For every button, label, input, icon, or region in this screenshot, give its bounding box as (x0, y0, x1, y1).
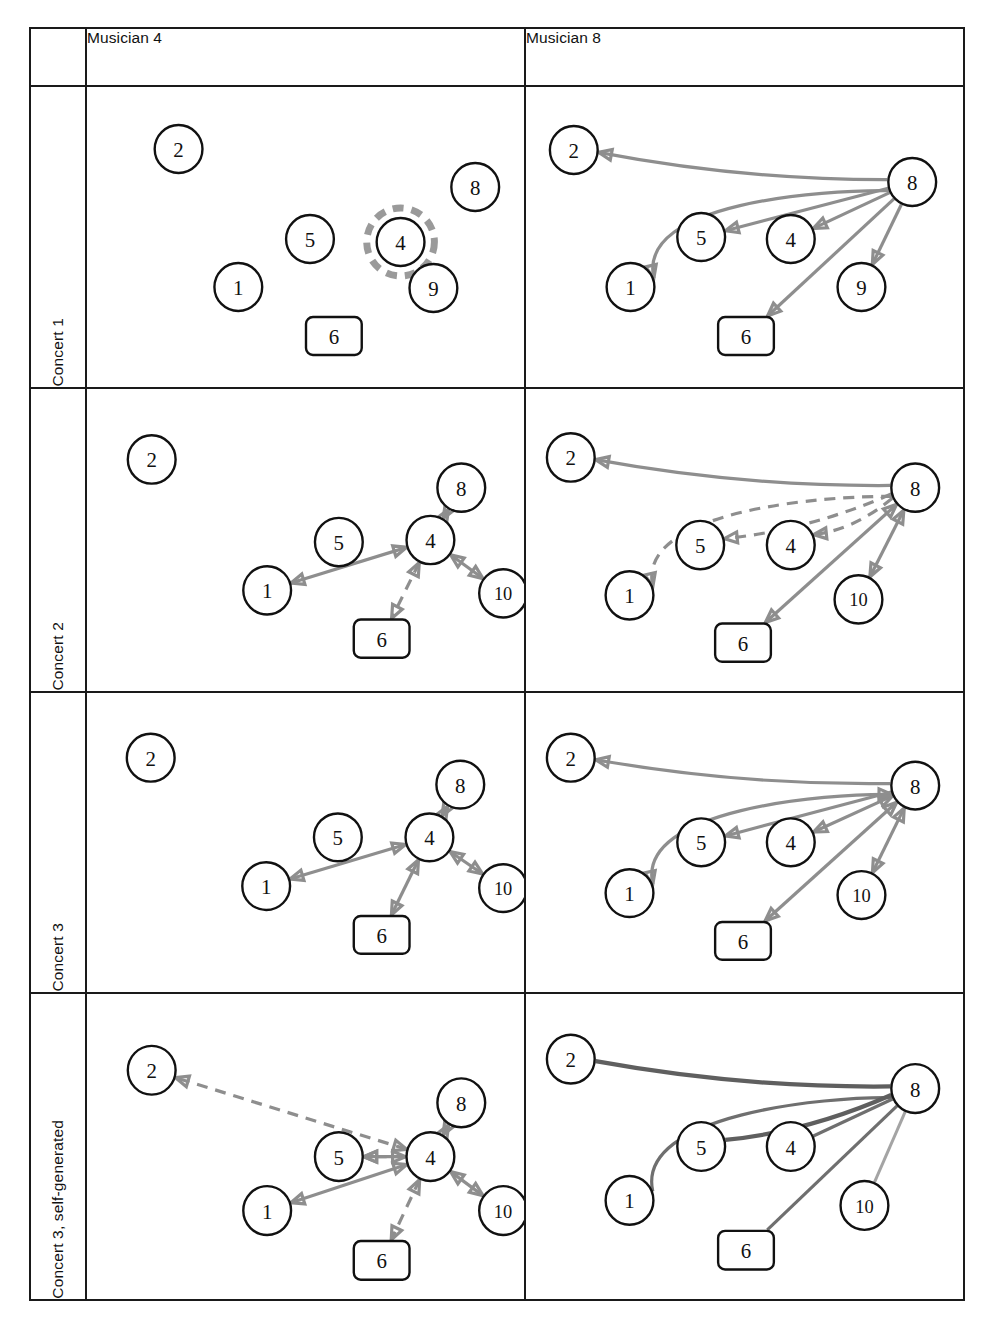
network-diagram: 28541106 (87, 994, 524, 1299)
node-label: 6 (376, 1249, 386, 1273)
node-10: 10 (479, 864, 524, 912)
node-label: 10 (494, 879, 512, 899)
node-layer: 2854196 (155, 125, 499, 355)
node-label: 6 (376, 628, 386, 652)
node-4: 4 (407, 516, 455, 564)
node-5: 5 (676, 521, 724, 569)
node-label: 2 (146, 1059, 156, 1083)
node-8: 8 (436, 761, 484, 809)
row-label-text: Concert 3 (50, 909, 66, 992)
node-label: 8 (456, 477, 466, 501)
node-label: 6 (741, 325, 751, 349)
row-label-text: Concert 1 (50, 304, 66, 387)
arrowhead (392, 843, 406, 853)
column-header-musician4: Musician 4 (86, 28, 525, 86)
node-10: 10 (479, 1186, 524, 1235)
node-2: 2 (550, 126, 598, 174)
node-label: 2 (173, 138, 183, 162)
node-label: 6 (376, 924, 386, 948)
node-label: 1 (624, 1189, 634, 1213)
node-label: 1 (624, 882, 634, 906)
node-label: 2 (566, 446, 576, 470)
node-label: 5 (696, 1135, 706, 1159)
panel-concert2-musician4: 28541106 (86, 388, 525, 692)
node-label: 4 (786, 831, 797, 855)
node-5: 5 (677, 213, 725, 261)
node-6: 6 (718, 1231, 774, 1270)
node-label: 6 (329, 325, 339, 349)
node-8: 8 (891, 762, 939, 810)
node-label: 5 (695, 534, 705, 558)
node-8: 8 (891, 1064, 939, 1113)
arrowhead (291, 574, 305, 584)
arrowhead (813, 218, 827, 228)
arrowhead (393, 1163, 407, 1173)
arrowhead (391, 1225, 401, 1239)
row-label-concert2: Concert 2 (30, 388, 86, 692)
node-1: 1 (243, 566, 291, 614)
node-1: 1 (606, 1176, 654, 1225)
network-diagram: 28541106 (526, 389, 963, 691)
edge-8-10 (872, 808, 904, 873)
network-diagram: 2854196 (87, 87, 524, 387)
arrowhead (409, 1179, 419, 1193)
arrowhead (391, 901, 402, 915)
figure-sheet: Musician 4 Musician 8 Concert 1 2854196 … (0, 0, 985, 1326)
node-1: 1 (606, 571, 654, 619)
edge-8-2 (596, 460, 891, 486)
node-6: 6 (718, 317, 774, 355)
node-label: 2 (146, 448, 156, 472)
node-9: 9 (410, 264, 458, 312)
node-label: 6 (741, 1239, 751, 1263)
node-1: 1 (606, 869, 654, 917)
node-label: 10 (855, 1195, 873, 1216)
node-label: 10 (494, 584, 512, 604)
panel-concert3-musician4: 28541106 (86, 692, 525, 993)
panel-concert3-musician8: 28541106 (525, 692, 964, 993)
arrowhead (176, 1076, 190, 1087)
panel-concert2-musician8: 28541106 (525, 388, 964, 692)
network-diagram: 28541106 (526, 693, 963, 992)
edge-8-10 (870, 510, 904, 577)
node-2: 2 (128, 435, 176, 483)
arrowhead (894, 808, 905, 822)
matrix-corner-cell (30, 28, 86, 86)
edge-layer (290, 802, 483, 915)
panel-concert3sg-musician4: 28541106 (86, 993, 525, 1300)
node-label: 8 (910, 775, 920, 799)
network-diagram: 28541106 (87, 693, 524, 992)
node-label: 5 (334, 1145, 344, 1169)
node-2: 2 (128, 1045, 176, 1094)
node-10: 10 (841, 1181, 889, 1230)
node-label: 4 (425, 529, 436, 553)
edge-8-2 (596, 760, 891, 784)
node-label: 1 (262, 579, 272, 603)
node-label: 5 (305, 228, 315, 252)
node-10: 10 (835, 575, 883, 623)
network-diagram: 28541106 (526, 994, 963, 1299)
node-label: 2 (566, 747, 576, 771)
row-label-text: Concert 3, self-generated (50, 1106, 66, 1299)
node-label: 9 (856, 276, 866, 300)
node-label: 10 (849, 590, 867, 610)
matrix-row-concert1: Concert 1 2854196 2854196 (30, 86, 964, 388)
node-layer: 28541106 (128, 435, 524, 657)
row-label-concert3-self-generated: Concert 3, self-generated (30, 993, 86, 1300)
arrowhead (393, 546, 407, 556)
edge-4-10 (451, 555, 483, 579)
node-label: 10 (494, 1201, 512, 1222)
node-label: 8 (910, 477, 920, 501)
matrix-header-row: Musician 4 Musician 8 (30, 28, 964, 86)
node-9: 9 (838, 263, 886, 311)
node-1: 1 (214, 263, 262, 311)
panel-concert1-musician4: 2854196 (86, 86, 525, 388)
node-label: 4 (786, 228, 797, 252)
node-label: 2 (569, 139, 579, 163)
node-8: 8 (437, 463, 485, 511)
arrowhead (392, 604, 403, 618)
node-2: 2 (155, 125, 203, 173)
node-label: 8 (455, 774, 465, 798)
node-8: 8 (437, 1078, 485, 1127)
node-5: 5 (286, 215, 334, 263)
node-layer: 28541106 (547, 1034, 939, 1269)
